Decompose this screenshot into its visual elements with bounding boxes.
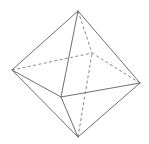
octahedron-diagram [0,0,149,144]
edge-bottom-back [78,53,92,137]
hidden-edges-group [12,11,140,137]
edge-bottom-left [12,70,78,137]
edge-right-front [61,83,140,97]
edge-bottom-right [78,83,140,137]
edge-left-front [12,70,61,97]
edge-right-back [92,53,140,83]
edge-top-back [78,11,92,53]
edge-bottom-front [61,97,78,137]
figure-canvas [0,0,149,144]
visible-edges-group [12,11,140,137]
edge-top-right [78,11,140,83]
edge-left-back [12,53,92,70]
